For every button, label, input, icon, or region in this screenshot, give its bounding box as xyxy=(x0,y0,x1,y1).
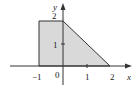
x-axis-label: x xyxy=(126,72,131,82)
shaded-region xyxy=(39,21,110,66)
x-tick-label-1: 1 xyxy=(85,72,90,82)
origin-label: 0 xyxy=(55,70,60,80)
y-axis-arrow-icon xyxy=(61,3,66,10)
y-tick-label-2: 2 xyxy=(52,11,57,21)
x-tick-label-neg1: −1 xyxy=(32,72,42,82)
x-axis-arrow-icon xyxy=(125,64,132,69)
region-diagram: y x 2 1 −1 0 1 2 xyxy=(0,0,138,95)
x-tick-label-2: 2 xyxy=(110,72,115,82)
y-tick-label-1: 1 xyxy=(53,40,58,50)
